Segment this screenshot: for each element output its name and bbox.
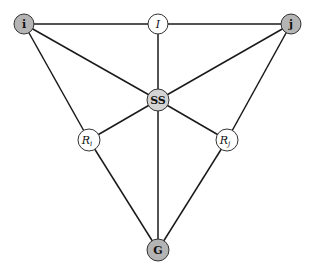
- node-G: G: [147, 239, 169, 261]
- edge-j-SS: [158, 24, 291, 100]
- edge-Ri-G: [89, 140, 158, 250]
- node-label: i: [22, 18, 26, 31]
- edge-j-Rj: [227, 24, 291, 140]
- node-label: I: [155, 18, 161, 31]
- edges-layer: [24, 24, 291, 250]
- edge-i-SS: [24, 24, 158, 100]
- node-I: I: [148, 14, 168, 34]
- edge-i-Ri: [24, 24, 89, 140]
- node-Rj: Rj: [216, 129, 238, 151]
- node-j: j: [281, 14, 301, 34]
- edge-SS-Ri: [89, 100, 158, 140]
- node-Ri: Ri: [78, 129, 100, 151]
- network-diagram: iIjSSRiRjG: [0, 0, 315, 276]
- edge-SS-Rj: [158, 100, 227, 140]
- node-SS: SS: [147, 89, 169, 111]
- node-i: i: [14, 14, 34, 34]
- node-label: SS: [150, 94, 166, 107]
- node-label-subscript: i: [90, 140, 92, 148]
- node-label: j: [288, 18, 293, 31]
- edge-Rj-G: [158, 140, 227, 250]
- node-label: G: [153, 244, 162, 257]
